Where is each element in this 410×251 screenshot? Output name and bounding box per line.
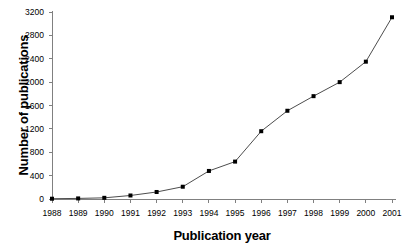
x-axis-title: Publication year — [52, 228, 392, 243]
data-point-marker — [76, 196, 80, 200]
data-point-marker — [259, 129, 263, 133]
data-point-marker — [102, 196, 106, 200]
y-tick-label: 400 — [30, 171, 44, 181]
x-tick-label-group: 1988198919901991199219931994199519961997… — [43, 208, 402, 218]
x-tick-label: 2001 — [383, 208, 402, 218]
y-tick-label: 800 — [30, 147, 44, 157]
y-tick-label: 2400 — [25, 54, 44, 64]
data-point-marker — [155, 190, 159, 194]
y-tick-label: 2800 — [25, 30, 44, 40]
x-tick-label: 1999 — [330, 208, 349, 218]
y-tick-label: 3200 — [25, 7, 44, 17]
data-point-marker — [338, 80, 342, 84]
data-point-marker — [285, 109, 289, 113]
y-tick-label: 1600 — [25, 101, 44, 111]
x-tick-label: 2000 — [356, 208, 375, 218]
x-tick-label: 1991 — [121, 208, 140, 218]
x-tick-label: 1995 — [226, 208, 245, 218]
y-tick-label: 1200 — [25, 124, 44, 134]
series-line-publications — [52, 17, 392, 198]
x-tick-label: 1997 — [278, 208, 297, 218]
publications-line-chart: Number of publications 04008001200160020… — [0, 0, 410, 251]
x-tick-label: 1994 — [199, 208, 218, 218]
x-tick-label: 1992 — [147, 208, 166, 218]
series-marker-group — [50, 15, 394, 200]
data-point-marker — [207, 169, 211, 173]
data-point-marker — [181, 185, 185, 189]
x-tick-label: 1988 — [43, 208, 62, 218]
data-point-marker — [390, 15, 394, 19]
data-point-marker — [312, 94, 316, 98]
y-tick-label: 2000 — [25, 77, 44, 87]
y-tick-label-group: 0400800120016002000240028003200 — [25, 7, 44, 204]
x-tick-label: 1998 — [304, 208, 323, 218]
data-point-marker — [233, 160, 237, 164]
x-tick-label: 1996 — [252, 208, 271, 218]
y-tick-label: 0 — [39, 194, 44, 204]
x-tick-label: 1993 — [173, 208, 192, 218]
x-tick-label: 1989 — [69, 208, 88, 218]
data-point-marker — [50, 197, 54, 201]
x-tick-label: 1990 — [95, 208, 114, 218]
data-point-marker — [128, 193, 132, 197]
data-point-marker — [364, 60, 368, 64]
chart-plot-area: 0400800120016002000240028003200 19881989… — [0, 0, 410, 251]
